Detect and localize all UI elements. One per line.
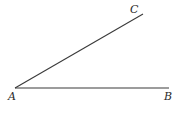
angle-diagram: A B C <box>0 0 177 121</box>
angle-lines <box>0 0 177 121</box>
point-label-a: A <box>8 91 16 102</box>
point-label-c: C <box>130 4 138 15</box>
point-label-b: B <box>164 91 172 102</box>
ray-ac <box>15 14 143 88</box>
